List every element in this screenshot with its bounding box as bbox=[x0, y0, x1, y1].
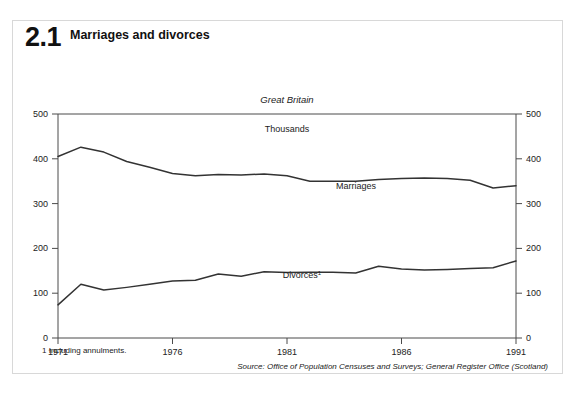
chart-region-label: Great Britain bbox=[260, 94, 313, 105]
y-axis-right-label-200: 200 bbox=[526, 243, 541, 253]
line-chart: 0 100 200 300 400 500 0 100 200 300 400 … bbox=[13, 59, 564, 375]
figure-header: 2.1 Marriages and divorces bbox=[13, 21, 562, 59]
page-title: Marriages and divorces bbox=[70, 27, 210, 43]
series-line-marriages bbox=[58, 147, 516, 188]
y-axis-right-label-300: 300 bbox=[526, 199, 541, 209]
series-line-divorces bbox=[58, 261, 516, 305]
chart-area: 0 100 200 300 400 500 0 100 200 300 400 … bbox=[13, 59, 564, 375]
source-note: Source: Office of Population Censuses an… bbox=[237, 361, 548, 372]
x-axis-label-1976: 1976 bbox=[162, 347, 182, 357]
y-axis-right-label-500: 500 bbox=[526, 109, 541, 119]
y-axis-left-label-500: 500 bbox=[33, 109, 48, 119]
y-axis-left-label-100: 100 bbox=[33, 288, 48, 298]
y-axis-left-label-400: 400 bbox=[33, 154, 48, 164]
figure-number: 2.1 bbox=[25, 22, 61, 52]
x-axis-label-1991: 1991 bbox=[506, 347, 526, 357]
y-axis-left-label-300: 300 bbox=[33, 199, 48, 209]
x-axis-label-1981: 1981 bbox=[277, 347, 297, 357]
series-annotation-divorces: Divorces1 bbox=[283, 270, 322, 280]
chart-units-label: Thousands bbox=[265, 124, 310, 134]
y-axis-right-label-0: 0 bbox=[526, 333, 531, 343]
y-axis-left-label-0: 0 bbox=[43, 333, 48, 343]
footnote-annulments: 1 Including annulments. bbox=[42, 345, 127, 356]
y-axis-right-label-400: 400 bbox=[526, 154, 541, 164]
series-annotation-marriages: Marriages bbox=[336, 181, 377, 191]
y-axis-right-label-100: 100 bbox=[526, 288, 541, 298]
series-annotation-divorces-marker: 1 bbox=[318, 270, 322, 276]
y-axis-left-label-200: 200 bbox=[33, 243, 48, 253]
x-axis-label-1986: 1986 bbox=[391, 347, 411, 357]
series-annotation-divorces-text: Divorces bbox=[283, 270, 319, 280]
figure-panel: 2.1 Marriages and divorces bbox=[12, 20, 563, 374]
